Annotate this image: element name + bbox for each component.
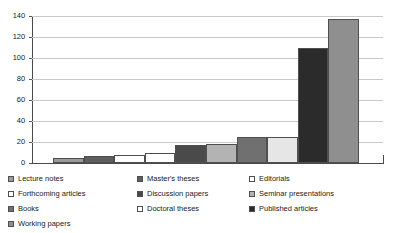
legend-item: Editorials <box>249 171 334 186</box>
legend-label: Master's theses <box>147 175 199 183</box>
bar <box>237 137 268 163</box>
legend-swatch-icon <box>137 206 143 212</box>
legend-column-3: EditorialsSeminar presentationsPublished… <box>249 171 334 216</box>
y-axis-label-40: 40 <box>3 117 25 125</box>
bar <box>53 158 84 163</box>
legend-item: Master's theses <box>137 171 208 186</box>
legend-label: Doctoral theses <box>147 205 199 213</box>
y-axis-label-0: 0 <box>3 159 25 167</box>
chart-figure: 020406080100120140 Lecture notesForthcom… <box>0 0 394 233</box>
legend-swatch-icon <box>8 221 14 227</box>
y-axis-label-140: 140 <box>3 12 25 20</box>
legend-item: Discussion papers <box>137 186 208 201</box>
legend-label: Books <box>18 205 39 213</box>
y-axis-label-120: 120 <box>3 33 25 41</box>
x-axis-line <box>32 163 384 164</box>
legend-item: Books <box>8 201 86 216</box>
bar <box>298 48 329 164</box>
chart-legend: Lecture notesForthcoming articlesBooksWo… <box>0 171 394 233</box>
legend-item: Lecture notes <box>8 171 86 186</box>
y-axis-label-60: 60 <box>3 96 25 104</box>
legend-item: Working papers <box>8 216 86 231</box>
bar <box>114 155 145 163</box>
legend-column-1: Lecture notesForthcoming articlesBooksWo… <box>8 171 86 231</box>
legend-item: Seminar presentations <box>249 186 334 201</box>
bar <box>267 137 298 163</box>
legend-swatch-icon <box>8 176 14 182</box>
legend-label: Editorials <box>259 175 290 183</box>
legend-item: Published articles <box>249 201 334 216</box>
bar <box>175 145 206 163</box>
legend-swatch-icon <box>249 191 255 197</box>
bar <box>84 156 115 163</box>
plot-area: 020406080100120140 <box>0 0 394 170</box>
legend-label: Published articles <box>259 205 318 213</box>
legend-swatch-icon <box>137 191 143 197</box>
legend-label: Working papers <box>18 220 70 228</box>
bar <box>328 19 359 163</box>
y-tick-0 <box>29 163 32 164</box>
legend-swatch-icon <box>8 191 14 197</box>
y-axis-label-20: 20 <box>3 138 25 146</box>
y-axis-label-100: 100 <box>3 54 25 62</box>
y-axis-label-80: 80 <box>3 75 25 83</box>
legend-label: Lecture notes <box>18 175 63 183</box>
legend-label: Discussion papers <box>147 190 208 198</box>
legend-label: Forthcoming articles <box>18 190 86 198</box>
bar <box>206 144 237 163</box>
legend-label: Seminar presentations <box>259 190 334 198</box>
legend-item: Doctoral theses <box>137 201 208 216</box>
legend-swatch-icon <box>249 176 255 182</box>
legend-item: Forthcoming articles <box>8 186 86 201</box>
legend-swatch-icon <box>137 176 143 182</box>
legend-swatch-icon <box>249 206 255 212</box>
bar <box>145 153 176 164</box>
bar-series <box>32 16 384 163</box>
legend-column-2: Master's thesesDiscussion papersDoctoral… <box>137 171 208 216</box>
legend-swatch-icon <box>8 206 14 212</box>
